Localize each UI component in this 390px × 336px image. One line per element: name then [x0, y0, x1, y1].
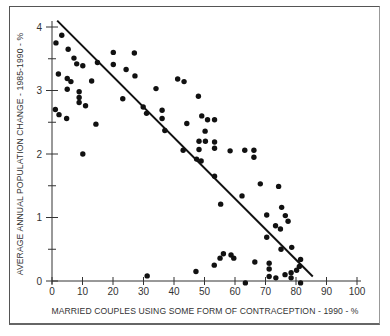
data-point [264, 212, 269, 217]
data-point [89, 78, 94, 83]
data-point [273, 275, 278, 280]
data-point [202, 128, 207, 133]
y-axis-title: AVERAGE ANNUAL POPULATION CHANGE - 1985-… [15, 33, 25, 276]
data-point [212, 139, 217, 144]
data-point [180, 147, 185, 152]
data-point [196, 147, 201, 152]
data-point [266, 274, 271, 279]
data-point [279, 205, 284, 210]
y-tick-label: 2 [36, 149, 42, 160]
data-point [140, 104, 145, 109]
data-point [56, 71, 61, 76]
data-point [68, 79, 73, 84]
x-tick-label: 20 [107, 286, 119, 297]
data-point [227, 148, 232, 153]
data-point [132, 73, 137, 78]
data-point [196, 94, 201, 99]
data-point [278, 226, 283, 231]
data-point [205, 117, 210, 122]
x-tick-label: 90 [321, 286, 333, 297]
data-point [252, 259, 257, 264]
y-tick-label: 1 [36, 212, 42, 223]
y-tick-label: 3 [36, 85, 42, 96]
data-point [83, 103, 88, 108]
data-point [144, 273, 149, 278]
data-point [59, 33, 64, 38]
data-point [53, 107, 58, 112]
x-tick-label: 0 [49, 286, 55, 297]
data-point [266, 266, 271, 271]
data-point [251, 147, 256, 152]
data-point [278, 247, 283, 252]
x-tick-label: 10 [77, 286, 89, 297]
data-point [132, 50, 137, 55]
data-point [218, 201, 223, 206]
data-point [231, 255, 236, 260]
data-point [196, 139, 201, 144]
data-point [181, 79, 186, 84]
data-point [153, 86, 158, 91]
data-point [282, 272, 287, 277]
data-point [123, 67, 128, 72]
data-point [193, 269, 198, 274]
data-point [175, 76, 180, 81]
data-point [212, 146, 217, 151]
data-point [242, 147, 247, 152]
data-point [199, 113, 204, 118]
x-tick-label: 50 [199, 286, 211, 297]
data-point [258, 181, 263, 186]
data-point [283, 213, 288, 218]
y-tick-label: 0 [36, 276, 42, 287]
data-point [80, 63, 85, 68]
data-point [162, 128, 167, 133]
data-point [74, 61, 79, 66]
data-point [65, 87, 70, 92]
data-point [65, 47, 70, 52]
x-tick-label: 80 [290, 286, 302, 297]
data-point [159, 107, 164, 112]
data-point [289, 245, 294, 250]
x-tick-label: 40 [168, 286, 180, 297]
data-point [95, 60, 100, 65]
x-tick-label: 100 [349, 286, 366, 297]
data-points [53, 33, 304, 286]
data-point [212, 262, 217, 267]
data-point [76, 100, 81, 105]
data-point [298, 280, 303, 285]
data-point [93, 121, 98, 126]
data-point [144, 111, 149, 116]
data-point [212, 174, 217, 179]
data-point [251, 154, 256, 159]
data-point [276, 184, 281, 189]
data-point [80, 151, 85, 156]
x-axis-title: MARRIED COUPLES USING SOME FORM OF CONTR… [51, 306, 358, 316]
data-point [120, 96, 125, 101]
data-point [243, 280, 248, 285]
data-point [239, 193, 244, 198]
data-point [198, 158, 203, 163]
data-point [64, 116, 69, 121]
data-point [53, 40, 58, 45]
data-point [71, 55, 76, 60]
data-point [159, 116, 164, 121]
data-point [76, 89, 81, 94]
data-point [264, 234, 269, 239]
y-tick-label: 4 [36, 22, 42, 33]
data-point [298, 257, 303, 262]
data-point [212, 117, 217, 122]
data-point [56, 112, 61, 117]
data-point [203, 139, 208, 144]
data-point [217, 255, 222, 260]
x-tick-label: 60 [229, 286, 241, 297]
data-point [221, 251, 226, 256]
data-point [111, 50, 116, 55]
data-point [273, 223, 278, 228]
x-tick-label: 70 [260, 286, 272, 297]
x-tick-label: 30 [138, 286, 150, 297]
data-point [288, 270, 293, 275]
data-point [285, 219, 290, 224]
data-point [266, 261, 271, 266]
data-point [111, 62, 116, 67]
data-point [288, 275, 293, 280]
data-point [294, 268, 299, 273]
